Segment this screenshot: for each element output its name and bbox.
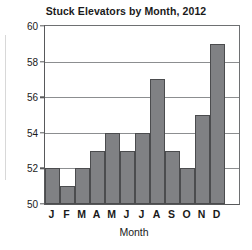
x-tick-may: M [104,208,119,220]
bar-august [150,79,165,204]
chart-title: Stuck Elevators by Month, 2012 [0,5,252,17]
chart-figure: Stuck Elevators by Month, 2012 505254565… [0,0,252,250]
x-tick-june: J [119,208,134,220]
y-axis-tick-label: 50 [0,199,38,210]
bar-december [210,44,225,204]
bar-cell [135,26,150,204]
bar-july [135,133,150,204]
x-tick-september: S [164,208,179,220]
x-tick-april: A [89,208,104,220]
bar-january [45,168,60,204]
bar-april [90,151,105,204]
x-axis-title: Month [44,226,224,238]
bar-cell [195,26,210,204]
bar-cell [90,26,105,204]
bar-cell [150,26,165,204]
y-axis-tick-label: 56 [0,92,38,103]
x-axis-tick-labels: JFMAMJJASOND [44,208,224,220]
bar-series [45,26,225,204]
bar-cell [60,26,75,204]
x-tick-october: O [179,208,194,220]
plot-inner: 505254565860 [45,26,239,204]
bar-june [120,151,135,204]
x-tick-august: A [149,208,164,220]
bar-march [75,168,90,204]
y-axis-tick-label: 58 [0,56,38,67]
y-axis-tick-label: 52 [0,163,38,174]
y-axis-tick-label: 60 [0,21,38,32]
bar-november [195,115,210,204]
x-tick-february: F [59,208,74,220]
x-tick-march: M [74,208,89,220]
bar-cell [210,26,225,204]
bar-cell [165,26,180,204]
bar-cell [180,26,195,204]
bar-cell [75,26,90,204]
x-tick-december: D [209,208,224,220]
bar-february [60,186,75,204]
bar-september [165,151,180,204]
x-tick-july: J [134,208,149,220]
x-tick-january: J [44,208,59,220]
bar-may [105,133,120,204]
bar-cell [105,26,120,204]
x-tick-november: N [194,208,209,220]
bar-october [180,168,195,204]
bar-cell [120,26,135,204]
bar-cell [45,26,60,204]
plot-area: 505254565860 [44,25,240,205]
y-axis-tick-label: 54 [0,127,38,138]
